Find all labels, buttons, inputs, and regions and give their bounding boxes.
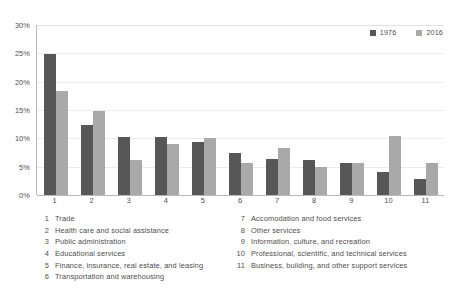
legend-entry-1976: 1976 (370, 28, 397, 37)
bar-group (111, 25, 148, 195)
bar-2016-cat-5 (204, 138, 216, 195)
bar-2016-cat-10 (389, 136, 401, 196)
legend-entry-2016: 2016 (416, 28, 443, 37)
bar-group (148, 25, 185, 195)
category-key-label: Trade (49, 214, 75, 224)
category-key-number: 9 (232, 237, 245, 247)
y-tick-label: 10% (15, 134, 30, 143)
bar-2016-cat-2 (93, 111, 105, 195)
category-key-number: 11 (232, 261, 245, 271)
legend-label: 1976 (380, 28, 397, 37)
bar-1976-cat-4 (155, 137, 167, 195)
bar-group (185, 25, 222, 195)
category-key-label: Professional, scientific, and technical … (245, 249, 407, 259)
category-key-item: 7Accomodation and food services (232, 214, 456, 224)
category-key-number: 4 (36, 249, 49, 259)
category-key-label: Accomodation and food services (245, 214, 361, 224)
category-key-label: Public administration (49, 237, 126, 247)
grouped-bar-chart: 0%5%10%15%20%25%30% 1234567891011 197620… (0, 0, 458, 212)
bar-1976-cat-8 (303, 160, 315, 195)
x-tick-label: 10 (370, 196, 407, 205)
bar-2016-cat-3 (130, 160, 142, 195)
category-key-label: Health care and social assistance (49, 226, 169, 236)
category-key-right-column: 7Accomodation and food services8Other se… (232, 214, 456, 282)
y-tick-label: 30% (15, 21, 30, 30)
x-tick-label: 1 (36, 196, 73, 205)
category-key-item: 1Trade (36, 214, 232, 224)
bar-2016-cat-1 (56, 91, 68, 195)
bar-2016-cat-9 (352, 163, 364, 195)
bar-group (407, 25, 444, 195)
category-key-item: 4Educational services (36, 249, 232, 259)
bar-1976-cat-5 (192, 142, 204, 195)
x-tick-label: 4 (147, 196, 184, 205)
square-swatch-icon (370, 30, 376, 36)
category-key-item: 5Finance, insurance, real estate, and le… (36, 261, 232, 271)
category-key-item: 3Public administration (36, 237, 232, 247)
bar-group (333, 25, 370, 195)
bar-group (37, 25, 74, 195)
bar-1976-cat-3 (118, 137, 130, 195)
y-tick-label: 0% (19, 191, 30, 200)
category-key-number: 6 (36, 272, 49, 282)
category-key-left-column: 1Trade2Health care and social assistance… (36, 214, 232, 282)
bar-group (222, 25, 259, 195)
y-tick-label: 25% (15, 49, 30, 58)
category-key-item: 10Professional, scientific, and technica… (232, 249, 456, 259)
category-key-item: 8Other services (232, 226, 456, 236)
category-key-label: Information, culture, and recreation (245, 237, 370, 247)
x-tick-label: 6 (221, 196, 258, 205)
x-tick-label: 3 (110, 196, 147, 205)
x-tick-label: 11 (407, 196, 444, 205)
category-key-number: 10 (232, 249, 245, 259)
x-tick-label: 8 (296, 196, 333, 205)
category-key-item: 11Business, building, and other support … (232, 261, 456, 271)
bar-group (74, 25, 111, 195)
bar-1976-cat-6 (229, 153, 241, 196)
category-key-item: 9Information, culture, and recreation (232, 237, 456, 247)
x-tick-label: 7 (259, 196, 296, 205)
x-tick-label: 9 (333, 196, 370, 205)
category-key-label: Other services (245, 226, 300, 236)
bar-1976-cat-9 (340, 163, 352, 195)
x-tick-label: 2 (73, 196, 110, 205)
bar-group (296, 25, 333, 195)
category-key-number: 8 (232, 226, 245, 236)
y-tick-label: 15% (15, 106, 30, 115)
y-tick-label: 20% (15, 77, 30, 86)
category-key-number: 3 (36, 237, 49, 247)
bar-1976-cat-10 (377, 172, 389, 195)
category-key-item: 2Health care and social assistance (36, 226, 232, 236)
bar-1976-cat-2 (81, 125, 93, 195)
y-axis: 0%5%10%15%20%25%30% (0, 0, 34, 212)
category-key-label: Transportation and warehousing (49, 272, 164, 282)
x-tick-label: 5 (184, 196, 221, 205)
square-swatch-icon (416, 30, 422, 36)
category-key-label: Business, building, and other support se… (245, 261, 407, 271)
category-key-number: 7 (232, 214, 245, 224)
bar-1976-cat-1 (44, 54, 56, 195)
bar-2016-cat-11 (426, 163, 438, 195)
bar-group (370, 25, 407, 195)
bars-layer (37, 25, 444, 195)
category-key-number: 1 (36, 214, 49, 224)
x-axis: 1234567891011 (36, 196, 444, 205)
category-key-number: 2 (36, 226, 49, 236)
category-key-label: Finance, insurance, real estate, and lea… (49, 261, 203, 271)
bar-2016-cat-7 (278, 148, 290, 195)
category-key-number: 5 (36, 261, 49, 271)
bar-2016-cat-4 (167, 144, 179, 195)
bar-1976-cat-11 (414, 179, 426, 195)
series-legend: 19762016 (370, 28, 443, 37)
legend-label: 2016 (426, 28, 443, 37)
y-tick-label: 5% (19, 162, 30, 171)
bar-2016-cat-8 (315, 167, 327, 195)
category-key-label: Educational services (49, 249, 125, 259)
bar-group (259, 25, 296, 195)
category-key-item: 6Transportation and warehousing (36, 272, 232, 282)
category-key: 1Trade2Health care and social assistance… (36, 214, 456, 282)
bar-1976-cat-7 (266, 159, 278, 195)
plot-area (36, 25, 444, 195)
bar-2016-cat-6 (241, 163, 253, 195)
